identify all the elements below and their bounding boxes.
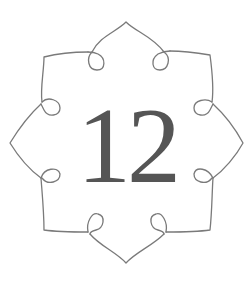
emblem-number: 12 [0, 92, 246, 200]
